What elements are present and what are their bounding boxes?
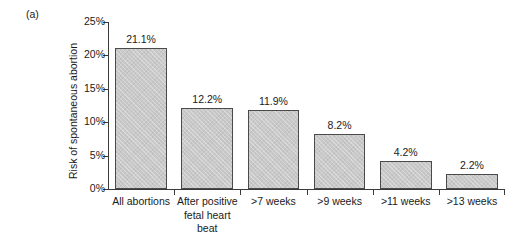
plot-area: 0%5%10%15%20%25% 21.1%12.2%11.9%8.2%4.2%…	[108, 22, 505, 189]
category-label-line: fetal heart	[166, 209, 248, 223]
y-tick-label: 20%	[84, 48, 105, 61]
y-axis-title: Risk of spontaneous abortion	[67, 24, 79, 199]
bar-value-label: 4.2%	[373, 146, 439, 158]
y-tick-label: 25%	[84, 15, 105, 28]
bar	[380, 161, 432, 189]
bar-value-label: 11.9%	[240, 95, 306, 107]
category-label-line: >13 weeks	[431, 195, 513, 209]
bar-value-label: 2.2%	[439, 159, 505, 171]
panel-label: (a)	[26, 8, 39, 20]
bar	[181, 108, 233, 189]
x-axis-category-labels: All abortionsAfter positivefetal heartbe…	[108, 195, 505, 241]
bar-value-label: 12.2%	[174, 93, 240, 105]
bar	[115, 48, 167, 189]
bar	[314, 134, 366, 189]
y-tick-label: 10%	[84, 115, 105, 128]
bar	[446, 174, 498, 189]
category-label-line: beat	[166, 222, 248, 236]
bar-value-label: 8.2%	[307, 119, 373, 131]
bar	[248, 110, 300, 189]
figure-panel-a: (a) Risk of spontaneous abortion 0%5%10%…	[0, 0, 522, 241]
y-tick-label: 0%	[90, 182, 105, 195]
y-tick-label: 5%	[90, 149, 105, 162]
y-tick-label: 15%	[84, 82, 105, 95]
x-axis-category-label: >13 weeks	[431, 195, 513, 209]
bar-value-label: 21.1%	[108, 33, 174, 45]
